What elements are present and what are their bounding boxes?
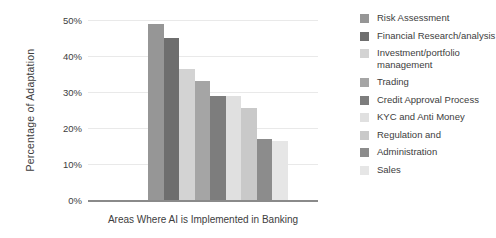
legend-item[interactable]: Administration: [360, 146, 496, 158]
legend-item[interactable]: Financial Research/analysis: [360, 30, 496, 42]
legend-item[interactable]: Investment/portfolio management: [360, 47, 496, 70]
legend-item-label: Investment/portfolio management: [377, 47, 496, 70]
legend-swatch-icon: [360, 113, 369, 122]
legend-item[interactable]: KYC and Anti Money: [360, 111, 496, 123]
y-axis-tick-label: 20%: [63, 123, 82, 134]
plot-area: 0%10%20%30%40%50%: [88, 20, 318, 200]
axis-baseline: 0%: [88, 200, 318, 202]
legend: Risk AssessmentFinancial Research/analys…: [360, 12, 496, 181]
legend-swatch-icon: [360, 78, 369, 87]
legend-swatch-icon: [360, 14, 369, 23]
bar: [148, 24, 164, 200]
legend-swatch-icon: [360, 96, 369, 105]
y-axis-title: Percentage of Adaptation: [24, 20, 36, 200]
legend-item-label: Financial Research/analysis: [377, 30, 495, 42]
y-axis-tick-label: 40%: [63, 51, 82, 62]
legend-item-label: Administration: [377, 146, 437, 158]
legend-swatch-icon: [360, 49, 369, 58]
y-axis-tick-label: 10%: [63, 159, 82, 170]
y-axis-tick-label: 0%: [68, 195, 82, 206]
legend-item-label: Risk Assessment: [377, 12, 449, 24]
bar: [241, 108, 257, 200]
bar: [272, 141, 288, 200]
legend-item[interactable]: Trading: [360, 76, 496, 88]
legend-item[interactable]: Risk Assessment: [360, 12, 496, 24]
bar: [226, 96, 242, 200]
bar: [195, 81, 211, 200]
legend-item-label: Trading: [377, 76, 409, 88]
bar: [257, 139, 273, 200]
legend-item-label: Credit Approval Process: [377, 94, 479, 106]
bar-chart-figure: Percentage of Adaptation 0%10%20%30%40%5…: [0, 0, 496, 238]
legend-item[interactable]: Credit Approval Process: [360, 94, 496, 106]
bar: [164, 38, 180, 200]
y-axis-tick-label: 50%: [63, 15, 82, 26]
bar: [179, 69, 195, 200]
legend-swatch-icon: [360, 148, 369, 157]
legend-swatch-icon: [360, 131, 369, 140]
legend-item-label: Regulation and: [377, 129, 441, 141]
legend-item-label: Sales: [377, 164, 401, 176]
legend-item-label: KYC and Anti Money: [377, 111, 465, 123]
bar-series: [148, 20, 288, 200]
legend-item[interactable]: Regulation and: [360, 129, 496, 141]
legend-swatch-icon: [360, 166, 369, 175]
legend-swatch-icon: [360, 32, 369, 41]
y-axis-tick-label: 30%: [63, 87, 82, 98]
bar: [210, 96, 226, 200]
x-axis-title: Areas Where AI is Implemented in Banking: [88, 214, 318, 225]
legend-item[interactable]: Sales: [360, 164, 496, 176]
